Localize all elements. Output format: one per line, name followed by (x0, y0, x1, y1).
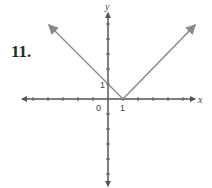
function-curve (49, 25, 195, 99)
origin-label: 0 (96, 103, 101, 113)
x-axis-label: x (197, 94, 203, 105)
x-tick-label-1: 1 (120, 103, 125, 113)
y-tick-label-1: 1 (100, 80, 105, 90)
y-axis-label: y (104, 1, 110, 12)
graph: y x 0 1 1 (0, 0, 212, 188)
